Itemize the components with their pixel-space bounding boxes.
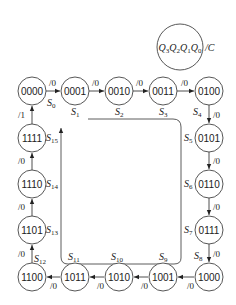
- state-node-s9: 1001: [149, 263, 177, 291]
- state-code: 1000: [198, 272, 221, 283]
- state-name: S3: [159, 106, 168, 119]
- state-code: 0010: [108, 86, 131, 97]
- state-name: S7: [184, 224, 193, 237]
- state-node-s12: 1100: [18, 263, 46, 291]
- state-code: 1111: [22, 133, 42, 144]
- state-code: 0110: [198, 179, 220, 190]
- state-code: 1011: [64, 272, 86, 283]
- output-label: /0: [18, 249, 26, 259]
- output-label: /0: [18, 156, 26, 166]
- state-node-s1: 0001: [61, 77, 89, 105]
- state-node-s11: 1011: [61, 263, 89, 291]
- state-code: 0101: [198, 133, 221, 144]
- legend-output-label: /C: [204, 42, 215, 53]
- state-node-s7: 0111: [195, 216, 223, 244]
- state-name: S4: [193, 106, 202, 119]
- state-node-s13: 1101: [18, 216, 46, 244]
- state-code: 0000: [21, 86, 44, 97]
- state-name: S13: [46, 224, 59, 237]
- legend-state-label: Q3Q2Q1Q0: [159, 42, 202, 55]
- output-label: /0: [97, 281, 105, 291]
- output-label: /1: [18, 110, 25, 120]
- state-name: S1: [71, 106, 80, 119]
- state-name: S2: [115, 106, 124, 119]
- state-node-s15: 1111: [18, 124, 46, 152]
- state-diagram: Q3Q2Q1Q0 /C /0 /0 /0 /0 /0 /0 /0 /0 /0 /…: [0, 0, 236, 305]
- output-label: /0: [50, 281, 58, 291]
- state-code: 1001: [152, 272, 175, 283]
- state-name: S10: [111, 251, 124, 264]
- state-name: S5: [184, 132, 193, 145]
- state-name: S0: [47, 97, 56, 110]
- state-name: S11: [68, 251, 80, 264]
- output-label: /0: [181, 78, 189, 88]
- output-label: /0: [92, 78, 100, 88]
- state-node-s4: 0100: [195, 77, 223, 105]
- state-code: 0011: [152, 86, 174, 97]
- state-node-s8: 1000: [195, 263, 223, 291]
- state-node-s10: 1010: [105, 263, 133, 291]
- output-label: /0: [213, 202, 221, 212]
- output-label: /0: [141, 281, 149, 291]
- state-code: 1101: [21, 225, 43, 236]
- state-node-s3: 0011: [149, 77, 177, 105]
- legend: Q3Q2Q1Q0 /C: [157, 24, 215, 70]
- state-code: 1110: [22, 179, 43, 190]
- output-label: /0: [18, 202, 26, 212]
- state-code: 0001: [64, 86, 87, 97]
- state-name: S15: [46, 132, 59, 145]
- output-label: /0: [213, 110, 221, 120]
- state-node-s2: 0010: [105, 77, 133, 105]
- output-label: /0: [49, 78, 57, 88]
- state-node-s5: 0101: [195, 124, 223, 152]
- state-node-s0: 0000: [18, 77, 46, 105]
- output-label: /0: [213, 156, 221, 166]
- state-code: 1100: [21, 272, 43, 283]
- state-node-s14: 1110: [18, 170, 46, 198]
- state-node-s6: 0110: [195, 170, 223, 198]
- output-label: /0: [187, 281, 195, 291]
- state-name: S14: [46, 178, 59, 191]
- output-label: /0: [213, 249, 221, 259]
- state-code: 0100: [198, 86, 221, 97]
- state-code: 1010: [108, 272, 131, 283]
- state-code: 0111: [199, 225, 220, 236]
- output-label: /0: [136, 78, 144, 88]
- state-name: S6: [184, 178, 193, 191]
- inner-loop-arrow: [61, 119, 181, 264]
- state-name: S9: [159, 251, 168, 264]
- state-name: S8: [194, 250, 203, 263]
- state-name-labels: S0 S1 S2 S3 S4 S5 S6 S7 S8 S9 S10 S11 S1…: [34, 97, 203, 266]
